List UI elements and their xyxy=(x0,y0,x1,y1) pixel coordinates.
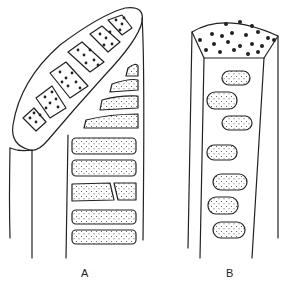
diagram-figure xyxy=(0,0,289,285)
panel-label-b: B xyxy=(226,267,233,279)
panel-label-a: A xyxy=(81,267,88,279)
panel-b-top-dots xyxy=(198,20,276,56)
